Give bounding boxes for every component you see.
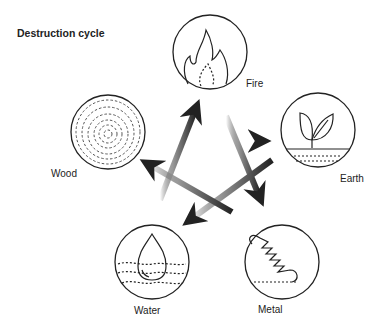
fire-node <box>173 15 247 89</box>
label-earth: Earth <box>340 173 364 184</box>
destruction-cycle-diagram <box>0 0 384 332</box>
wood-node <box>71 95 145 169</box>
label-metal: Metal <box>258 304 282 315</box>
water-node <box>115 225 189 299</box>
label-water: Water <box>134 305 160 316</box>
arrow-fire-to-metal <box>226 116 260 198</box>
earth-node <box>281 93 355 167</box>
label-wood: Wood <box>51 168 77 179</box>
metal-node <box>245 225 319 299</box>
arrow-metal-to-wood <box>148 164 232 212</box>
label-fire: Fire <box>246 78 263 89</box>
